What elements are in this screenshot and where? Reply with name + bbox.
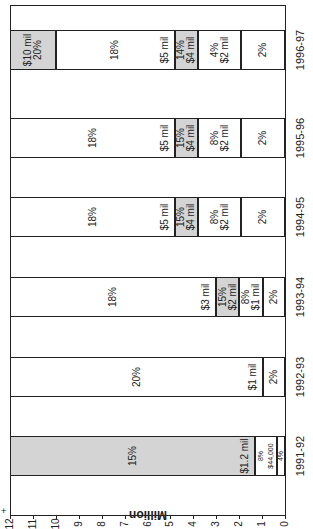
segment-label: $4 mil — [186, 20, 196, 80]
segment-label: $2 mil — [220, 108, 230, 168]
segment-label: $1 mil — [248, 347, 258, 407]
tick-label: 9 — [74, 514, 84, 529]
segment-label: 2% — [269, 347, 279, 407]
tick-label: 0 — [280, 514, 290, 529]
segment-label: 15% — [128, 426, 138, 486]
tick-label: 3 — [211, 514, 221, 529]
segment-label: $1 mil — [251, 267, 261, 327]
y-axis-label: Million — [118, 510, 178, 520]
segment-label: $1.2 mil — [240, 426, 250, 486]
segment-label: $5 mil — [160, 20, 170, 80]
tick-label: 2 — [234, 514, 244, 529]
category-label: 1992-93 — [295, 352, 305, 402]
segment-label: 18% — [108, 267, 118, 327]
tick-label: 11 — [28, 514, 38, 529]
segment-label: 2% — [258, 187, 268, 247]
segment-label: $5 mil — [160, 108, 170, 168]
tick-label: 1 — [257, 514, 267, 529]
segment-label: 18% — [88, 108, 98, 168]
stacked-bar-chart: 4%8%$44,000$1.2 mil15%2%$1 mil20%2%8%$1 … — [0, 0, 313, 529]
axis-plus-mark: + — [1, 506, 6, 516]
category-label: 1993-94 — [295, 272, 305, 322]
segment-label: $2 mil — [228, 267, 238, 327]
segment-label: 8% — [256, 426, 266, 486]
segment-label: 4% — [276, 426, 286, 486]
segment-label: 20% — [33, 20, 43, 80]
category-label: 1996-97 — [295, 25, 305, 75]
category-label: 1995-96 — [295, 113, 305, 163]
segment-label: $4 mil — [186, 187, 196, 247]
tick-label: 12 — [5, 514, 15, 529]
segment-label: $44,000 — [266, 426, 276, 486]
segment-label: $3 mil — [201, 267, 211, 327]
segment-label: $2 mil — [220, 187, 230, 247]
segment-label: 2% — [269, 267, 279, 327]
tick-label: 4 — [188, 514, 198, 529]
segment-label: 18% — [88, 187, 98, 247]
segment-label: $5 mil — [160, 187, 170, 247]
segment-label: $2 mil — [220, 20, 230, 80]
segment-label: 18% — [110, 20, 120, 80]
segment-label: $4 mil — [186, 108, 196, 168]
tick-label: 10 — [51, 514, 61, 529]
category-label: 1994-95 — [295, 192, 305, 242]
segment-label: 2% — [258, 108, 268, 168]
segment-label: 2% — [258, 20, 268, 80]
tick-label: 8 — [97, 514, 107, 529]
category-label: 1991-92 — [295, 431, 305, 481]
segment-label: 20% — [132, 347, 142, 407]
